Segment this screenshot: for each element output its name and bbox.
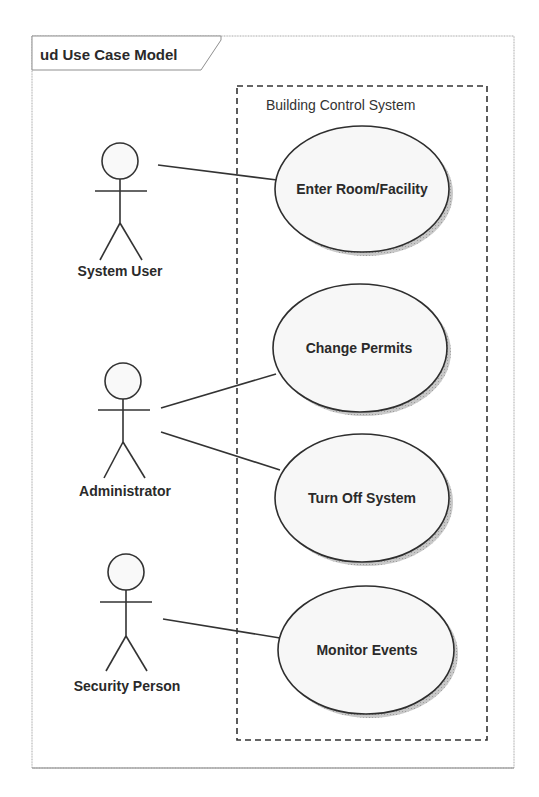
- use-case-label: Turn Off System: [308, 490, 416, 506]
- frame-title: ud Use Case Model: [40, 46, 178, 63]
- use-case-label: Monitor Events: [316, 642, 417, 658]
- actor-label: Security Person: [74, 678, 181, 694]
- actor-label: Administrator: [79, 483, 171, 499]
- use-case-label: Enter Room/Facility: [296, 181, 428, 197]
- actor-label: System User: [78, 263, 163, 279]
- use-case-label: Change Permits: [306, 340, 413, 356]
- use-case-diagram: ud Use Case Model Building Control Syste…: [0, 0, 539, 797]
- system-boundary-label: Building Control System: [266, 97, 415, 113]
